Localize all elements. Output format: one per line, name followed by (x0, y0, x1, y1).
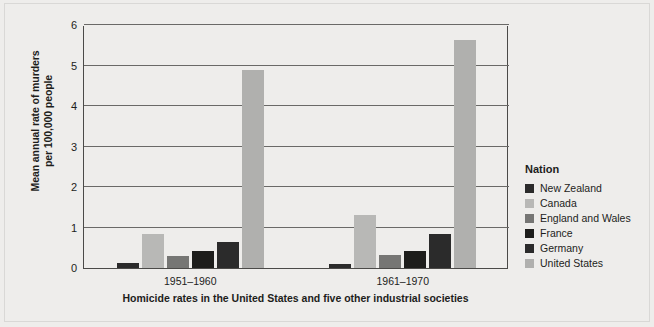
y-axis-tick-label: 4 (71, 100, 77, 112)
legend-item-label: United States (540, 257, 603, 269)
bar (454, 40, 476, 268)
legend: Nation New ZealandCanadaEngland and Wale… (525, 163, 645, 271)
bar (142, 234, 164, 268)
y-axis-tick-label: 3 (71, 141, 77, 153)
x-axis-tick-label: 1951–1960 (164, 275, 217, 287)
gridline: 4 (84, 105, 509, 106)
y-axis-tick-label: 0 (71, 262, 77, 274)
legend-item: France (525, 226, 645, 240)
y-axis-title-line-2: per 100,000 people (42, 21, 55, 221)
plot-right-edge (507, 26, 508, 269)
bar (354, 215, 376, 268)
legend-item-label: England and Wales (540, 212, 631, 224)
bar (242, 70, 264, 268)
bar (217, 242, 239, 268)
y-axis-tick-label: 6 (71, 19, 77, 31)
bar (379, 255, 401, 268)
chart-figure: Mean annual rate of murders per 100,000 … (0, 0, 654, 327)
bar (429, 234, 451, 268)
x-axis-tick-label: 1961–1970 (376, 275, 429, 287)
legend-swatch-icon (525, 184, 534, 193)
y-axis-title: Mean annual rate of murders per 100,000 … (29, 21, 55, 221)
y-axis-title-line-1: Mean annual rate of murders (29, 21, 42, 221)
bar (167, 256, 189, 268)
legend-item: New Zealand (525, 181, 645, 195)
chart-caption: Homicide rates in the United States and … (83, 292, 508, 304)
bar (117, 263, 139, 268)
gridline: 3 (84, 146, 509, 147)
legend-swatch-icon (525, 244, 534, 253)
bar (329, 264, 351, 268)
legend-items: New ZealandCanadaEngland and WalesFrance… (525, 181, 645, 270)
legend-item-label: France (540, 227, 573, 239)
gridline: 2 (84, 186, 509, 187)
legend-item: Germany (525, 241, 645, 255)
legend-item-label: Canada (540, 197, 577, 209)
y-axis-tick-label: 5 (71, 60, 77, 72)
gridline: 1 (84, 227, 509, 228)
gridline: 5 (84, 65, 509, 66)
legend-item: United States (525, 256, 645, 270)
y-axis-tick-label: 2 (71, 181, 77, 193)
legend-item-label: New Zealand (540, 182, 602, 194)
legend-swatch-icon (525, 229, 534, 238)
legend-item: England and Wales (525, 211, 645, 225)
plot-area: 0123456 1951–19601961–1970 (83, 26, 508, 269)
legend-item: Canada (525, 196, 645, 210)
legend-title: Nation (525, 163, 645, 175)
legend-swatch-icon (525, 214, 534, 223)
bar (404, 251, 426, 268)
legend-swatch-icon (525, 259, 534, 268)
gridline: 6 (84, 24, 509, 25)
y-axis-tick-label: 1 (71, 222, 77, 234)
legend-swatch-icon (525, 199, 534, 208)
bar (192, 251, 214, 268)
legend-item-label: Germany (540, 242, 583, 254)
